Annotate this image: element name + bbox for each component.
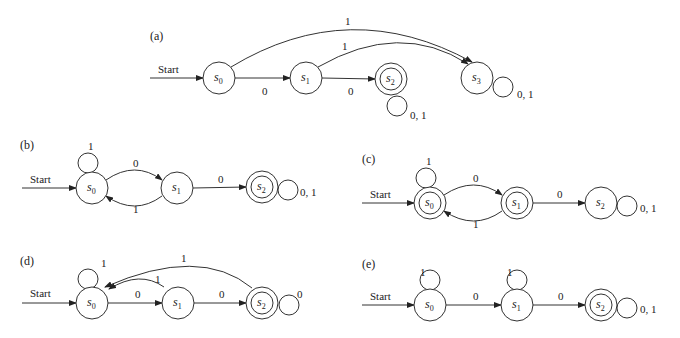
panel-label: (e) [362,257,375,271]
state-s1: s1 [501,187,533,219]
state-s2: s2 [246,171,278,203]
transition-loop: 1 [507,266,527,290]
transition-loop: 1 [420,266,440,290]
transition-label: 0 [348,85,354,97]
transition-curve: 1 [106,196,162,215]
transition-line: 0 [193,173,246,188]
transition-label: 1 [345,15,351,27]
transition-label: 1 [507,266,513,278]
state-s2: s2 [375,63,407,95]
panel-label: (c) [362,152,375,166]
transition-label: 0, 1 [517,88,534,100]
panel-label: (a) [150,29,163,43]
panel-label: (d) [20,254,34,268]
transition-label: 0, 1 [640,202,657,214]
panel-d: (d)Start001110s0s1s2 [20,252,303,319]
transition-label: 1 [133,203,139,215]
transition-loop: 0 [279,288,303,315]
state-s3: s3 [461,62,493,94]
panel-a: (a)Start00110, 10, 1s0s1s2s3 [150,15,534,121]
transition-line: 0 [235,78,290,97]
transition-label: 0 [135,288,141,300]
transition-label: 0 [133,157,139,169]
transition-label: 0 [219,288,225,300]
transition-label: 1 [155,273,161,285]
transition-label: 0 [297,288,303,300]
transition-loop: 0, 1 [278,180,317,200]
transition-label: 1 [88,140,94,152]
start-label: Start [30,287,51,299]
state-s1: s1 [290,62,322,94]
transition-loop: 0, 1 [387,96,427,121]
state-s0: s0 [414,289,446,321]
transition-label: 1 [426,155,432,167]
state-s0: s0 [414,187,446,219]
state-s2: s2 [246,287,278,319]
transition-line: 0 [322,78,375,97]
transition-label: 0 [557,188,563,200]
transition-line: 0 [108,288,162,303]
transition-line: 0 [446,290,501,305]
transition-curve: 0 [444,172,502,195]
transition-line: 0 [533,188,585,203]
panel-b: (b)Start01010, 1s0s1s2 [20,138,317,215]
transition-label: 0 [473,290,479,302]
transition-label: 0 [558,290,564,302]
transition-loop: 1 [78,257,107,289]
state-s0: s0 [203,62,235,94]
transition-line: 0 [533,290,585,305]
state-s0: s0 [76,172,108,204]
panel-label: (b) [20,138,34,152]
transition-loop: 0, 1 [617,298,657,318]
panel-e: (e)Start00110, 1s0s1s2 [362,257,657,321]
transition-line: 0 [194,288,246,303]
start-label: Start [370,188,391,200]
transition-loop: 1 [416,155,436,188]
transition-curve: 0 [106,157,162,180]
transition-loop: 0, 1 [493,77,534,100]
state-s1: s1 [161,172,193,204]
fsm-figure: (a)Start00110, 10, 1s0s1s2s3(b)Start0101… [0,0,680,338]
transition-loop: 1 [78,140,98,173]
transition-label: 0, 1 [640,303,657,315]
start-label: Start [30,173,51,185]
transition-label: 0 [473,172,479,184]
transition-label: 0, 1 [410,109,427,121]
transition-loop: 0, 1 [617,196,657,216]
transition-label: 1 [473,218,479,230]
transition-curve: 1 [231,15,472,67]
transition-curve: 1 [444,211,502,230]
state-s0: s0 [76,287,108,319]
state-s1: s1 [162,287,194,319]
transition-label: 0, 1 [300,186,317,198]
state-s2: s2 [585,187,617,219]
transition-label: 0 [218,173,224,185]
start-label: Start [370,290,391,302]
state-s1: s1 [501,289,533,321]
transition-label: 1 [420,266,426,278]
transition-curve: 1 [105,252,252,288]
transition-label: 1 [342,40,348,52]
transition-label: 0 [262,85,268,97]
state-s2: s2 [585,289,617,321]
start-label: Start [158,63,179,75]
diagram-svg: (a)Start00110, 10, 1s0s1s2s3(b)Start0101… [0,0,680,338]
transition-label: 1 [181,252,187,264]
panel-c: (c)Start01010, 1s0s1s2 [362,152,657,230]
transition-label: 1 [101,257,107,269]
